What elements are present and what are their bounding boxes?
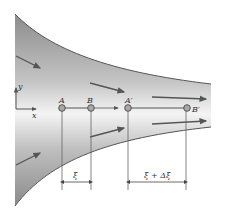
flow-diagram: y x A B A′ B′ ξ ξ + Δξ: [0, 0, 227, 217]
point-a-prime: [125, 105, 132, 112]
label-b-prime: B′: [191, 105, 200, 114]
y-axis-label: y: [17, 82, 23, 91]
label-a-prime: A′: [124, 96, 133, 105]
label-a: A: [58, 96, 65, 105]
point-a: [59, 105, 66, 112]
label-xi-plus-delta: ξ + Δξ: [144, 171, 171, 180]
point-b-prime: [184, 105, 191, 112]
x-axis-label: x: [32, 111, 37, 120]
label-xi: ξ: [73, 171, 78, 180]
label-b: B: [86, 96, 93, 105]
point-b: [88, 105, 95, 112]
